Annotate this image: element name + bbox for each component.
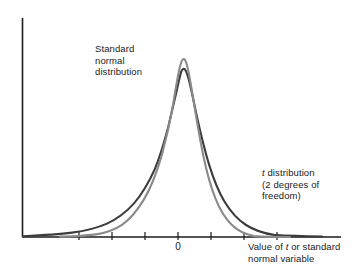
t-distribution-annotation-line1-rest: distribution bbox=[265, 167, 315, 178]
t-distribution-annotation: t distribution (2 degrees of freedom) bbox=[262, 167, 319, 202]
x-axis-title-line1-post: or standard bbox=[288, 241, 340, 252]
standard-normal-annotation-line2: normal bbox=[95, 55, 142, 67]
t-distribution-annotation-line2: (2 degrees of bbox=[262, 179, 319, 191]
x-axis-ticks bbox=[79, 232, 277, 240]
distribution-plot bbox=[0, 0, 357, 274]
x-axis-title-line2: normal variable bbox=[248, 253, 340, 265]
t-distribution-annotation-line1: t distribution bbox=[262, 167, 319, 179]
standard-normal-annotation-line1: Standard bbox=[95, 43, 142, 55]
x-axis-title: Value of t or standard normal variable bbox=[248, 241, 340, 264]
x-axis-title-line1: Value of t or standard bbox=[248, 241, 340, 253]
t-distribution-curve bbox=[23, 69, 322, 237]
x-axis-zero-label: 0 bbox=[160, 241, 196, 252]
t-distribution-annotation-line3: freedom) bbox=[262, 190, 319, 202]
standard-normal-annotation: Standard normal distribution bbox=[95, 43, 142, 78]
statistical-distribution-figure: Standard normal distribution t distribut… bbox=[0, 0, 357, 274]
x-axis-title-line1-pre: Value of bbox=[248, 241, 286, 252]
standard-normal-annotation-line3: distribution bbox=[95, 66, 142, 78]
standard-normal-curve bbox=[60, 59, 290, 237]
